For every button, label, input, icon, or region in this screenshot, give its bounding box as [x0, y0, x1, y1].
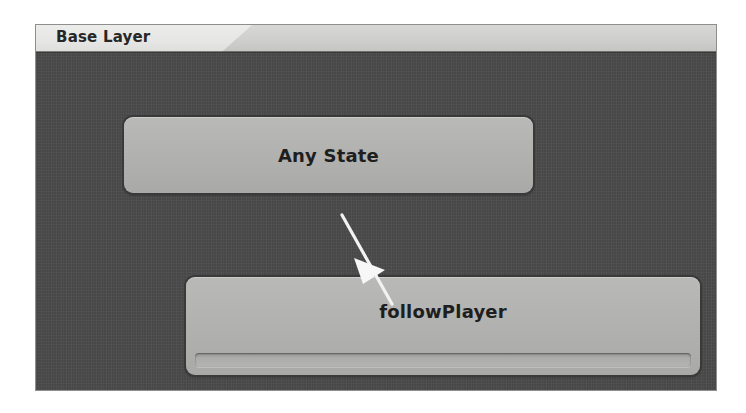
state-node-any-state-label: Any State — [278, 145, 379, 166]
animator-window: Base Layer Any State followPlayer — [36, 25, 716, 390]
state-node-any-state[interactable]: Any State — [124, 117, 533, 193]
state-node-follow-player-label: followPlayer — [186, 301, 700, 322]
tab-bar-underline — [36, 51, 716, 53]
state-node-follow-player[interactable]: followPlayer — [186, 277, 700, 375]
layer-tab-bar: Base Layer — [36, 25, 716, 52]
tab-base-layer-label: Base Layer — [56, 28, 150, 46]
state-progress-bar — [195, 353, 691, 367]
animator-graph-canvas[interactable]: Any State followPlayer — [36, 52, 716, 390]
